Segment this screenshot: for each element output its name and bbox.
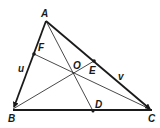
label-a: A — [40, 8, 48, 19]
label-u: u — [18, 63, 24, 74]
label-d: D — [95, 99, 102, 110]
point-e-dot — [92, 59, 96, 63]
label-e: E — [89, 65, 96, 76]
label-f: F — [38, 42, 45, 53]
point-f-dot — [32, 52, 36, 56]
side-a-c-vector-v — [46, 21, 150, 109]
triangle-diagram: A B C F E O D u v — [0, 0, 160, 128]
label-v: v — [118, 71, 125, 82]
label-o: O — [73, 60, 81, 71]
label-c: C — [148, 113, 156, 124]
median-b-e — [13, 61, 94, 109]
label-b: B — [8, 113, 15, 124]
